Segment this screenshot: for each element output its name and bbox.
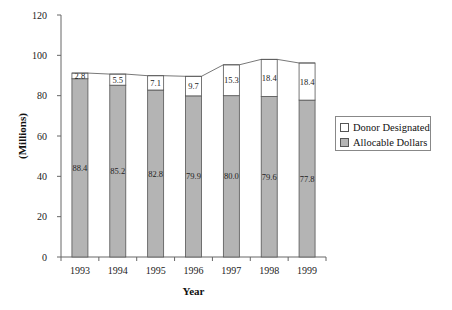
x-tick-label: 1996 [184,265,204,276]
stacked-bar-chart: 0204060801001202.888.419935.585.219947.1… [0,0,452,310]
y-tick-label: 0 [42,252,47,263]
series-line [72,59,315,76]
legend-swatch-allocable-icon [340,138,349,147]
bar-label-allocable: 77.8 [300,174,315,184]
bar-label-donor: 18.4 [300,77,316,87]
bar-label-donor: 9.7 [188,81,199,91]
x-tick-label: 1994 [108,265,128,276]
x-tick-label: 1997 [221,265,241,276]
y-tick-label: 20 [37,211,47,222]
legend-item-donor-designated: Donor Designated [340,120,426,135]
y-tick-label: 80 [37,90,47,101]
y-tick-label: 100 [32,50,47,61]
bar-label-allocable: 79.9 [186,171,201,181]
y-axis-title: (Millions) [16,113,29,159]
x-axis-title: Year [183,285,205,297]
y-tick-label: 120 [32,10,47,21]
legend-label: Allocable Dollars [353,137,427,148]
x-tick-label: 1998 [259,265,279,276]
bar-label-allocable: 80.0 [224,171,239,181]
y-tick-label: 40 [37,171,47,182]
legend-label: Donor Designated [353,122,430,133]
x-tick-label: 1993 [70,265,90,276]
bar-label-allocable: 88.4 [72,163,88,173]
bar-label-donor: 15.3 [224,75,239,85]
x-tick-label: 1995 [146,265,166,276]
bar-label-donor: 2.8 [75,71,86,81]
x-tick-label: 1999 [297,265,317,276]
bar-label-donor: 5.5 [112,75,123,85]
bar-label-donor: 7.1 [150,78,161,88]
chart-legend: Donor Designated Allocable Dollars [335,116,431,151]
y-tick-label: 60 [37,131,47,142]
bar-label-donor: 18.4 [262,73,278,83]
bar-label-allocable: 85.2 [110,166,125,176]
bar-label-allocable: 79.6 [262,172,277,182]
bar-label-allocable: 82.8 [148,169,163,179]
legend-item-allocable-dollars: Allocable Dollars [340,135,426,150]
legend-swatch-donor-icon [340,123,349,132]
